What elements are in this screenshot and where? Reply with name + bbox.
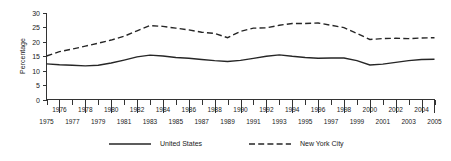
y-axis-tick-label: 15 — [32, 53, 40, 60]
x-axis-tick-label-lower: 1977 — [65, 118, 80, 125]
x-axis-tick-label-upper: 1982 — [130, 106, 145, 113]
legend-label-new-york-city: New York City — [300, 140, 344, 148]
x-axis-tick-label-upper: 1984 — [156, 106, 171, 113]
y-axis-title: Percentage — [19, 38, 27, 74]
x-axis-tick-label-lower: 1985 — [169, 118, 184, 125]
legend-item-new-york-city: New York City — [249, 140, 344, 148]
x-axis-tick-label-lower: 1987 — [194, 118, 209, 125]
series-line-united-states — [47, 55, 435, 66]
x-axis-tick-label-lower: 1979 — [91, 118, 106, 125]
x-axis-tick-label-upper: 2002 — [388, 106, 403, 113]
x-axis-tick-label-upper: 2000 — [363, 106, 378, 113]
x-axis-tick-label-upper: 1988 — [207, 106, 222, 113]
x-axis-tick-label-upper: 1998 — [337, 106, 352, 113]
y-axis-ticks: 051015202530 — [32, 10, 46, 104]
x-axis-tick-label-lower: 1975 — [39, 118, 54, 125]
x-axis-tick-label-lower: 2001 — [376, 118, 391, 125]
chart-legend: United States New York City — [109, 140, 344, 148]
x-axis-tick-label-upper: 1976 — [52, 106, 67, 113]
x-axis-tick-label-upper: 1996 — [311, 106, 326, 113]
y-axis-tick-label: 5 — [36, 82, 40, 89]
legend-label-united-states: United States — [160, 140, 203, 147]
y-axis-tick-label: 25 — [32, 24, 40, 31]
x-axis-tick-label-lower: 1993 — [272, 118, 287, 125]
x-axis-tick-label-upper: 1994 — [285, 106, 300, 113]
chart-canvas: Percentage 051015202530 1976197819801982… — [0, 0, 451, 161]
x-axis-tick-label-lower: 2005 — [427, 118, 442, 125]
legend-item-united-states: United States — [109, 140, 203, 147]
y-axis-tick-label: 20 — [32, 39, 40, 46]
series-line-new-york-city — [47, 23, 435, 56]
x-axis-tick-label-upper: 1990 — [233, 106, 248, 113]
x-axis-tick-label-lower: 1995 — [298, 118, 313, 125]
x-axis-tick-label-lower: 1981 — [117, 118, 132, 125]
y-axis-tick-label: 0 — [36, 97, 40, 104]
x-axis-tick-label-lower: 1989 — [220, 118, 235, 125]
x-axis-tick-label-lower: 1999 — [350, 118, 365, 125]
x-axis-tick-label-lower: 1983 — [143, 118, 158, 125]
y-axis-tick-label: 10 — [32, 68, 40, 75]
x-axis-labels-upper: 1976197819801982198419861988199019921994… — [52, 106, 429, 113]
x-axis-tick-label-upper: 2004 — [414, 106, 429, 113]
x-axis-tick-label-upper: 1992 — [259, 106, 274, 113]
line-chart: Percentage 051015202530 1976197819801982… — [0, 0, 451, 161]
x-axis-labels-lower: 1975197719791981198319851987198919911993… — [39, 118, 442, 125]
x-axis-tick-label-lower: 1991 — [246, 118, 261, 125]
x-axis-tick-label-upper: 1978 — [78, 106, 93, 113]
y-axis-tick-label: 30 — [32, 10, 40, 17]
x-axis-tick-label-lower: 1997 — [324, 118, 339, 125]
x-axis-tick-label-upper: 1980 — [104, 106, 119, 113]
x-axis-tick-label-lower: 2003 — [401, 118, 416, 125]
x-axis-tick-label-upper: 1986 — [182, 106, 197, 113]
